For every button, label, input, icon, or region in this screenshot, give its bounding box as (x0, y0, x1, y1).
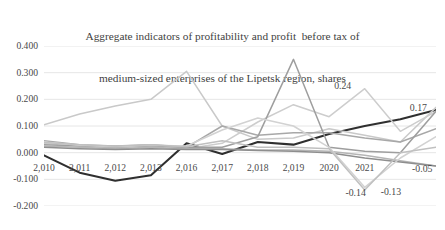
x-axis-tick-label: 2,010 (33, 162, 55, 174)
x-axis-tick-label: 2,011 (69, 162, 90, 174)
data-point-label: 0.17 (410, 102, 427, 113)
chart-container: Aggregate indicators of profitability an… (0, 0, 445, 230)
x-axis-tick-label: 2,016 (176, 162, 198, 174)
y-axis-tick-label: 0.400 (16, 41, 38, 51)
data-point-label: -0.05 (412, 163, 432, 174)
data-point-label: 0.24 (334, 80, 351, 91)
y-axis-tick-label: -0.200 (13, 201, 38, 211)
y-axis: 0.4000.3000.2000.1000.000-0.100-0.200 (0, 46, 42, 206)
data-point-label: -0.14 (345, 187, 365, 198)
y-axis-tick-label: 0.100 (16, 121, 38, 131)
data-point-label: -0.13 (381, 185, 401, 196)
chart-title-line-1: Aggregate indicators of profitability an… (0, 29, 445, 43)
plot-svg (44, 46, 436, 206)
x-axis-tick-label: 2,019 (283, 162, 305, 174)
y-axis-tick-label: 0.300 (16, 68, 38, 78)
x-axis-tick-label: 2,018 (247, 162, 269, 174)
x-axis-tick-label: 2,013 (140, 162, 162, 174)
x-axis-tick-label: 2021 (355, 162, 374, 174)
y-axis-tick-label: 0.000 (16, 148, 38, 158)
x-axis-tick-label: 2,012 (104, 162, 126, 174)
x-axis: 2,0102,0112,0122,0132,0162,0172,0182,019… (44, 162, 436, 178)
x-axis-tick-label: 2,017 (211, 162, 233, 174)
x-axis-tick-label: 2020 (319, 162, 338, 174)
y-axis-tick-label: 0.200 (16, 94, 38, 104)
plot-area (44, 46, 436, 206)
y-axis-tick-label: -0.100 (13, 174, 38, 184)
